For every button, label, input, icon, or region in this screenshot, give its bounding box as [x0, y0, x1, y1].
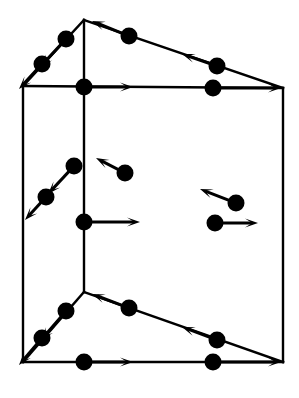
node-top-right-outer-dot [209, 58, 226, 75]
free-vector-left-face-upper-stem [53, 169, 71, 188]
node-top-front-right-dot [205, 80, 222, 97]
free-vector-right-face-upper-stem [207, 192, 232, 202]
node-top-right-inner-stem [99, 24, 125, 35]
node-top-left-lower-dot [34, 56, 51, 73]
node-top-left-upper-dot [58, 31, 75, 48]
node-bottom-right-inner-stem [99, 297, 125, 307]
node-bottom-right-outer-dot [209, 332, 226, 349]
node-bottom-left-upper-stem [46, 315, 63, 335]
node-bottom-left-lower-dot [34, 330, 51, 347]
node-bottom-front-right-dot [205, 354, 222, 371]
free-vectors-group [25, 158, 258, 232]
node-vertical-midpoint-dot [76, 214, 93, 231]
node-top-front-left-dot [76, 79, 93, 96]
free-vector-front-face-upper-dot [117, 165, 134, 182]
node-bottom-right-outer-stem [189, 329, 213, 338]
free-vector-right-face-lower-dot [207, 215, 224, 232]
free-vector-left-face-lower-dot [38, 189, 55, 206]
node-bottom-left-upper-dot [58, 303, 75, 320]
node-top-right-inner-dot [121, 28, 138, 45]
node-bottom-front-left-dot [76, 354, 93, 371]
figure-root [0, 0, 299, 398]
node-bottom-right-inner-dot [121, 300, 138, 317]
free-vector-left-face-upper-dot [66, 158, 83, 175]
prism-diagram [0, 0, 299, 398]
free-vector-right-face-upper-dot [228, 195, 245, 212]
